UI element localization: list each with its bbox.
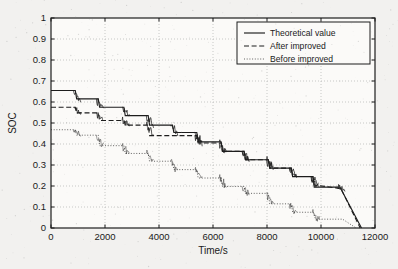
speckle	[185, 208, 186, 209]
speckle	[298, 246, 299, 247]
speckle	[273, 31, 274, 32]
xtick-label: 0	[48, 231, 53, 242]
speckle	[75, 257, 76, 258]
speckle	[311, 207, 312, 208]
speckle	[45, 24, 46, 25]
speckle	[173, 233, 174, 234]
speckle	[192, 10, 193, 11]
speckle	[28, 59, 29, 60]
speckle	[30, 116, 31, 117]
xtick-label: 4000	[148, 231, 169, 242]
y-axis-title: SOC	[7, 112, 18, 134]
speckle	[165, 87, 166, 88]
speckle	[311, 118, 312, 119]
speckle	[278, 168, 279, 169]
speckle	[150, 6, 151, 7]
speckle	[6, 218, 7, 219]
speckle	[189, 37, 190, 38]
speckle	[233, 240, 234, 241]
speckle	[229, 89, 230, 90]
speckle	[155, 86, 156, 87]
legend: Theoretical valueAfter improvedBefore im…	[237, 22, 370, 64]
xtick-label: 8000	[256, 231, 277, 242]
speckle	[11, 234, 12, 235]
speckle	[347, 119, 348, 120]
speckle	[349, 209, 350, 210]
speckle	[254, 98, 255, 99]
speckle	[259, 182, 260, 183]
speckle	[78, 160, 79, 161]
ytick-label: 0.2	[33, 180, 46, 191]
speckle	[200, 96, 201, 97]
speckle	[387, 107, 388, 108]
speckle	[106, 99, 107, 100]
speckle	[150, 46, 151, 47]
speckle	[15, 37, 16, 38]
speckle	[67, 35, 68, 36]
speckle	[275, 170, 276, 171]
speckle	[84, 132, 85, 133]
speckle	[357, 185, 358, 186]
speckle	[371, 103, 372, 104]
speckle	[353, 45, 354, 46]
ytick-label: 0.1	[33, 201, 46, 212]
speckle	[157, 195, 158, 196]
speckle	[64, 174, 65, 175]
speckle	[212, 44, 213, 45]
speckle	[13, 252, 14, 253]
speckle	[70, 262, 71, 263]
speckle	[216, 101, 217, 102]
speckle	[305, 95, 306, 96]
speckle	[288, 174, 289, 175]
speckle	[239, 182, 240, 183]
speckle	[83, 202, 84, 203]
speckle	[78, 34, 79, 35]
speckle	[43, 216, 44, 217]
speckle	[138, 128, 139, 129]
speckle	[282, 108, 283, 109]
speckle	[365, 240, 366, 241]
speckle	[97, 36, 98, 37]
speckle	[118, 207, 119, 208]
speckle	[392, 46, 393, 47]
speckle	[275, 30, 276, 31]
speckle	[196, 195, 197, 196]
speckle	[190, 252, 191, 253]
speckle	[338, 110, 339, 111]
speckle	[305, 53, 306, 54]
speckle	[135, 145, 136, 146]
speckle	[301, 3, 302, 4]
speckle	[168, 221, 169, 222]
speckle	[15, 27, 16, 28]
speckle	[223, 126, 224, 127]
speckle	[169, 66, 170, 67]
speckle	[181, 2, 182, 3]
speckle	[373, 23, 374, 24]
speckle	[170, 219, 171, 220]
speckle	[393, 205, 394, 206]
speckle	[97, 54, 98, 55]
speckle	[233, 29, 234, 30]
speckle	[88, 69, 89, 70]
speckle	[267, 173, 268, 174]
speckle	[308, 65, 309, 66]
ytick-label: 0.4	[33, 138, 46, 149]
speckle	[374, 152, 375, 153]
speckle	[212, 9, 213, 10]
speckle	[194, 131, 195, 132]
speckle	[76, 223, 77, 224]
speckle	[132, 70, 133, 71]
speckle	[164, 7, 165, 8]
speckle	[252, 138, 253, 139]
speckle	[358, 163, 359, 164]
speckle	[206, 153, 207, 154]
speckle	[241, 266, 242, 267]
speckle	[230, 135, 231, 136]
speckle	[53, 149, 54, 150]
speckle	[197, 162, 198, 163]
speckle	[115, 0, 116, 1]
speckle	[56, 161, 57, 162]
speckle	[392, 24, 393, 25]
speckle	[192, 247, 193, 248]
speckle	[330, 124, 331, 125]
